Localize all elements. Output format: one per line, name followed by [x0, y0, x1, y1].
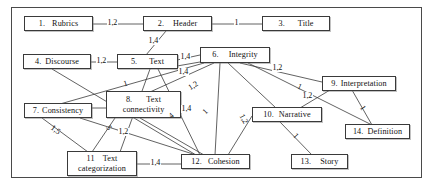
node-definition-number: 14.	[353, 127, 364, 136]
node-title-label: Title	[298, 19, 314, 28]
node-definition-label: Definition	[367, 127, 402, 136]
edge-label-8-12: 1,4	[181, 105, 192, 113]
edge-label-5-6-b: 1,4	[178, 68, 189, 76]
node-discourse-number: 4.	[35, 57, 41, 66]
node-definition[interactable]: 14. Definition	[345, 124, 410, 139]
edge-label-4-5: 1,2	[96, 57, 107, 65]
node-cohesion-number: 12.	[191, 157, 202, 166]
node-integrity-number: 6.	[212, 50, 218, 59]
node-text-connectivity-label: Text	[146, 95, 161, 104]
node-integrity-label: Integrity	[229, 50, 258, 59]
node-consistency[interactable]: 7. Consistency	[24, 103, 92, 118]
node-text-label: Text	[149, 57, 164, 66]
node-consistency-number: 7.	[33, 106, 39, 115]
node-text-number: 5.	[131, 57, 137, 66]
node-cohesion-label: Cohesion	[208, 157, 240, 166]
node-consistency-label: Consistency	[42, 106, 83, 115]
node-text-categorization-label2: categorization	[78, 164, 126, 173]
edge-7-12	[80, 118, 196, 155]
node-text-connectivity-number: 8.	[126, 95, 132, 104]
node-rubrics-number: 1.	[39, 19, 45, 28]
node-cohesion[interactable]: 12. Cohesion	[181, 154, 250, 169]
edge-label-9-10: 1,2	[302, 92, 313, 100]
node-header-number: 2.	[158, 19, 164, 28]
edge-label-2-3: 1	[234, 19, 239, 27]
node-story-number: 13.	[301, 157, 312, 166]
node-story[interactable]: 13. Story	[291, 154, 348, 169]
node-interpretation-label: Interpretation	[341, 79, 387, 88]
node-story-label: Story	[320, 157, 338, 166]
node-discourse[interactable]: 4. Discourse	[23, 54, 91, 69]
node-text[interactable]: 5. Text	[117, 54, 178, 69]
edge-label-5-6: 1,4	[180, 53, 191, 61]
edge-6-12	[215, 63, 220, 155]
edge-label-8-11: 1,2	[118, 128, 129, 136]
node-discourse-label: Discourse	[45, 57, 79, 66]
node-narrative-label: Narrative	[279, 110, 311, 119]
node-text-categorization-number: 11	[87, 154, 95, 163]
node-interpretation[interactable]: 9. Interpretation	[322, 76, 396, 91]
node-text-connectivity-label2: connectivity	[123, 105, 165, 114]
edge-label-6-9: 1,2	[272, 64, 283, 72]
node-rubrics-label: Rubrics	[52, 19, 78, 28]
node-header-label: Header	[173, 19, 197, 28]
node-narrative[interactable]: 10. Narrative	[252, 107, 322, 122]
node-interpretation-number: 9.	[331, 79, 337, 88]
node-text-categorization-label: Text	[103, 154, 118, 163]
node-narrative-number: 10.	[263, 110, 274, 119]
edge-label-2-5: 1,4	[148, 37, 159, 45]
node-integrity[interactable]: 6. Integrity	[200, 47, 270, 63]
node-title-number: 3.	[278, 19, 284, 28]
node-title[interactable]: 3. Title	[262, 16, 330, 31]
edge-8-12	[140, 118, 204, 155]
node-rubrics[interactable]: 1. Rubrics	[24, 16, 93, 31]
edge-label-11-12: 1,4	[150, 159, 161, 167]
node-header[interactable]: 2. Header	[143, 16, 212, 31]
edge-7-11	[42, 118, 88, 152]
edge-label-1-2: 1,2	[107, 19, 118, 27]
diagram-canvas: 1. Rubrics 2. Header 3. Title 4. Discour…	[0, 0, 435, 190]
node-text-categorization[interactable]: 11 Text categorization	[67, 151, 137, 176]
